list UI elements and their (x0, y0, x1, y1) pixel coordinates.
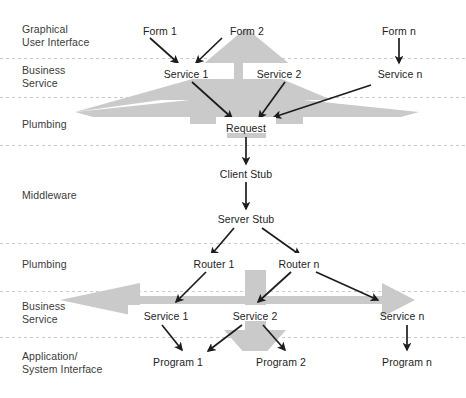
node-service-1-top: Service 1 (164, 68, 209, 80)
band-label-business-bottom-line-2: Service (22, 313, 58, 325)
node-form-1: Form 1 (143, 25, 177, 37)
band-label-business-top-line-1: Business (22, 64, 65, 76)
arrow-routern-to-servicen (316, 272, 378, 300)
node-form-n: Form n (382, 25, 416, 37)
band-label-plumbing-top: Plumbing (22, 118, 67, 130)
node-program-1: Program 1 (153, 356, 203, 368)
node-client-stub: Client Stub (220, 168, 273, 180)
band-label-middleware: Middleware (22, 189, 77, 201)
node-router-1: Router 1 (193, 258, 234, 270)
arrow-server-stub-to-routern (262, 228, 300, 255)
band-labels: Graphical User Interface Business Servic… (22, 23, 102, 375)
node-form-2: Form 2 (230, 25, 264, 37)
band-label-gui-line-2: User Interface (22, 36, 89, 48)
band-label-plumbing-bottom: Plumbing (22, 258, 67, 270)
band-label-application-line-1: Application/ (22, 350, 77, 362)
node-router-n: Router n (278, 258, 319, 270)
arrow-server-stub-to-router1 (211, 228, 234, 255)
band-label-gui-line-1: Graphical (22, 23, 68, 35)
node-program-n: Program n (382, 356, 432, 368)
band-label-application-line-2: System Interface (22, 363, 102, 375)
band-label-business-bottom-line-1: Business (22, 300, 65, 312)
node-service-n-bottom: Service n (380, 310, 425, 322)
node-service-n-top: Service n (378, 68, 423, 80)
node-request: Request (226, 122, 266, 134)
architecture-diagram: Graphical User Interface Business Servic… (0, 0, 466, 398)
node-service-2-top: Service 2 (257, 68, 302, 80)
arrow-form1-to-service1 (150, 38, 178, 63)
diagram-canvas: Graphical User Interface Business Servic… (0, 0, 466, 398)
node-server-stub: Server Stub (218, 213, 275, 225)
node-service-2-bottom: Service 2 (233, 310, 278, 322)
node-program-2: Program 2 (256, 356, 306, 368)
node-service-1-bottom: Service 1 (144, 310, 189, 322)
band-label-business-top-line-2: Service (22, 77, 58, 89)
